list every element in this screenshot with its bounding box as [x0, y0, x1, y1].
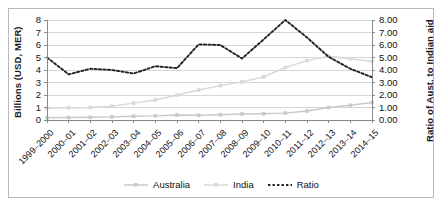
legend-item-ratio[interactable]: Ratio	[267, 179, 319, 190]
series-line-ratio	[47, 20, 372, 77]
series-line-australia	[47, 103, 372, 118]
data-point-marker	[132, 114, 136, 118]
data-point-marker	[219, 113, 223, 117]
data-point-marker	[89, 115, 93, 119]
data-point-marker	[110, 115, 114, 119]
data-point-marker	[197, 88, 201, 92]
legend-label-australia: Australia	[153, 179, 190, 190]
data-point-marker	[262, 112, 266, 116]
data-point-marker	[154, 98, 158, 102]
legend-swatch-australia	[123, 180, 149, 188]
data-point-marker	[132, 101, 136, 105]
legend-label-india: India	[233, 179, 254, 190]
chart-legend: AustraliaIndiaRatio	[0, 176, 442, 192]
data-point-marker	[197, 113, 201, 117]
legend-swatch-ratio	[267, 180, 293, 188]
legend-item-australia[interactable]: Australia	[123, 179, 190, 190]
data-point-marker	[175, 93, 179, 97]
data-point-marker	[305, 59, 309, 63]
data-point-marker	[327, 106, 331, 110]
data-point-marker	[349, 57, 353, 61]
data-point-marker	[240, 112, 244, 116]
data-point-marker	[67, 116, 71, 120]
data-point-marker	[284, 66, 288, 70]
data-point-marker	[219, 84, 223, 88]
legend-item-india[interactable]: India	[203, 179, 254, 190]
data-point-marker	[110, 104, 114, 108]
data-point-marker	[262, 75, 266, 79]
data-point-marker	[154, 114, 158, 118]
data-point-marker	[175, 113, 179, 117]
chart-figure: Billions (USD, MER) Ratio of Aust. to In…	[0, 0, 442, 206]
legend-label-ratio: Ratio	[297, 179, 319, 190]
data-point-marker	[284, 111, 288, 115]
legend-swatch-india	[203, 180, 229, 188]
data-point-marker	[240, 80, 244, 84]
data-point-marker	[349, 103, 353, 107]
data-point-marker	[67, 106, 71, 110]
data-point-marker	[305, 109, 309, 113]
data-point-marker	[89, 106, 93, 110]
